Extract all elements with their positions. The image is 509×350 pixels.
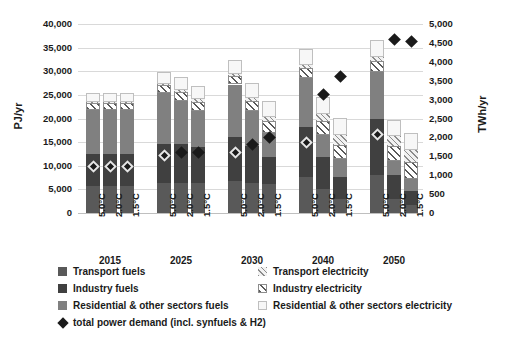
bar-segment-rf xyxy=(333,159,347,177)
legend-item[interactable]: total power demand (incl. synfuels & H2) xyxy=(58,317,266,328)
y-axis-tick-right: 1,500 xyxy=(429,151,453,161)
bar-segment-rf xyxy=(387,161,401,175)
y-axis-tick-left: 40,000 xyxy=(43,19,72,29)
legend-item[interactable]: Industry fuels xyxy=(58,283,139,294)
legend-item[interactable]: Residential & other sectors electricity xyxy=(258,300,452,311)
y-axis-tick-left: 35,000 xyxy=(43,43,72,53)
bar-segment-re xyxy=(174,77,188,90)
y-axis-title-right: TWh/yr xyxy=(476,84,488,144)
bar-segment-ie xyxy=(370,61,384,72)
bar-segment-if xyxy=(299,127,313,178)
bar-segment-rf xyxy=(103,110,117,154)
bar-segment-ie xyxy=(299,68,313,78)
bar-segment-re xyxy=(370,40,384,57)
y-axis-tick-left: 15,000 xyxy=(43,137,72,147)
bar-segment-ie xyxy=(228,76,242,85)
y-axis-title-left: PJ/yr xyxy=(12,86,24,146)
bar-segment-te xyxy=(157,84,171,85)
legend-swatch-icon xyxy=(58,301,67,310)
x-axis-tick-scenario: 5.0°C xyxy=(97,193,107,217)
legend-label: Transport fuels xyxy=(73,266,145,277)
y-axis-tick-left: 5,000 xyxy=(48,184,72,194)
stacked-bar-chart: PJ/yr TWh/yr 05,00010,00015,00020,00025,… xyxy=(0,0,509,350)
bar-segment-rf xyxy=(370,72,384,118)
x-axis-tick-scenario: 2.0°C xyxy=(327,193,337,217)
legend-swatch-icon xyxy=(258,267,267,276)
bar-segment-te xyxy=(262,117,276,122)
bar-segment-re xyxy=(157,72,171,84)
y-axis-tick-right: 5,000 xyxy=(429,19,453,29)
bar-segment-rf xyxy=(228,85,242,138)
bar-segment-rf xyxy=(316,135,330,157)
x-axis-tick-scenario: 1.5°C xyxy=(131,193,141,217)
bar-segment-re xyxy=(404,133,418,150)
gridline xyxy=(78,24,423,25)
legend-label: Industry fuels xyxy=(73,283,139,294)
bar-segment-re xyxy=(299,49,313,65)
bar-segment-rf xyxy=(157,93,171,144)
legend-swatch-icon xyxy=(58,284,67,293)
bar-segment-ie xyxy=(404,162,418,178)
x-axis-tick-scenario: 2.0°C xyxy=(185,193,195,217)
bar-segment-ie xyxy=(86,103,100,110)
legend-item[interactable]: Industry electricity xyxy=(258,283,362,294)
bar-segment-te xyxy=(174,90,188,92)
y-axis-tick-right: 2,000 xyxy=(429,132,453,142)
bar-segment-te xyxy=(404,150,418,163)
y-axis-tick-right: 4,000 xyxy=(429,57,453,67)
x-axis-tick-scenario: 2.0°C xyxy=(256,193,266,217)
bar-segment-re xyxy=(103,93,117,102)
legend-swatch-icon xyxy=(258,284,267,293)
x-axis-group-label-2040: 2040 xyxy=(298,255,348,266)
y-axis-tick-right: 3,000 xyxy=(429,95,453,105)
bar-segment-te xyxy=(228,74,242,76)
bar-segment-if xyxy=(316,157,330,190)
bar-segment-te xyxy=(86,102,100,103)
legend-label: total power demand (incl. synfuels & H2) xyxy=(73,317,266,328)
bar-segment-ie xyxy=(245,101,259,111)
x-axis-group-label-2025: 2025 xyxy=(156,255,206,266)
bar-segment-te xyxy=(245,98,259,101)
bar-segment-ie xyxy=(333,145,347,160)
y-axis-tick-left: 30,000 xyxy=(43,66,72,76)
bar-segment-re xyxy=(86,93,100,102)
bar-segment-te xyxy=(120,102,134,103)
y-axis-tick-left: 20,000 xyxy=(43,114,72,124)
plot-area: 05,00010,00015,00020,00025,00030,00035,0… xyxy=(78,24,423,213)
bar-segment-re xyxy=(120,93,134,102)
y-axis-tick-left: 25,000 xyxy=(43,90,72,100)
x-axis-tick-scenario: 2.0°C xyxy=(114,193,124,217)
legend-swatch-icon xyxy=(57,317,68,328)
bar-segment-rf xyxy=(299,78,313,126)
bar-segment-re xyxy=(245,83,259,98)
legend-item[interactable]: Transport electricity xyxy=(258,266,369,277)
bar-segment-te xyxy=(387,136,401,146)
bar-segment-rf xyxy=(120,110,134,154)
x-axis-group-label-2030: 2030 xyxy=(227,255,277,266)
y-axis-tick-left: 10,000 xyxy=(43,161,72,171)
y-axis-tick-right: 1,000 xyxy=(429,170,453,180)
bar-segment-if xyxy=(245,146,259,182)
total-power-demand-marker xyxy=(405,35,418,48)
y-axis-tick-right: 500 xyxy=(429,189,445,199)
legend-label: Residential & other sectors electricity xyxy=(273,300,452,311)
bar-segment-ie xyxy=(157,85,171,93)
bar-segment-te xyxy=(299,65,313,68)
bar-segment-if xyxy=(228,137,242,181)
y-axis-tick-right: 2,500 xyxy=(429,114,453,124)
bar-segment-re xyxy=(333,118,347,135)
bar-segment-te xyxy=(333,135,347,145)
x-axis-group-label-2050: 2050 xyxy=(369,255,419,266)
y-axis-tick-left: 0 xyxy=(67,208,72,218)
x-axis-group-label-2015: 2015 xyxy=(85,255,135,266)
x-axis-tick-scenario: 5.0°C xyxy=(310,193,320,217)
bar-segment-te xyxy=(316,114,330,121)
x-axis-tick-scenario: 1.5°C xyxy=(202,193,212,217)
x-axis-tick-scenario: 2.0°C xyxy=(398,193,408,217)
bar-segment-rf xyxy=(174,101,188,144)
bar-segment-re xyxy=(387,120,401,137)
total-power-demand-marker xyxy=(388,33,401,46)
legend-item[interactable]: Residential & other sectors fuels xyxy=(58,300,229,311)
legend-item[interactable]: Transport fuels xyxy=(58,266,145,277)
x-axis-tick-scenario: 1.5°C xyxy=(415,193,425,217)
